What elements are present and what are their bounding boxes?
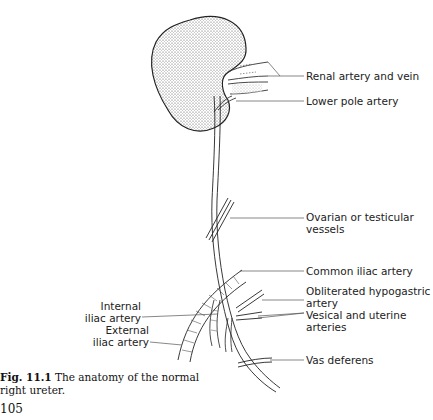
label-vesical-uterine-2: arteries bbox=[306, 321, 347, 333]
label-external-iliac-2: iliac artery bbox=[93, 336, 149, 348]
figure-caption: Fig. 11.1 The anatomy of the normal righ… bbox=[0, 371, 210, 397]
label-ovarian-testicular-1: Ovarian or testicular bbox=[306, 211, 414, 223]
label-obliterated-hypogastric-2: artery bbox=[306, 297, 338, 309]
label-external-iliac-1: External bbox=[105, 324, 149, 336]
label-ovarian-testicular-2: vessels bbox=[306, 223, 344, 235]
label-vas-deferens: Vas deferens bbox=[306, 354, 374, 366]
label-lower-pole-artery: Lower pole artery bbox=[306, 95, 398, 107]
label-obliterated-hypogastric-1: Obliterated hypogastric bbox=[306, 285, 430, 297]
label-internal-iliac-2: iliac artery bbox=[85, 312, 141, 324]
label-vesical-uterine-1: Vesical and uterine bbox=[306, 309, 406, 321]
figure-number: Fig. 11.1 bbox=[0, 371, 52, 383]
label-common-iliac-artery: Common iliac artery bbox=[306, 265, 413, 277]
label-internal-iliac-1: Internal bbox=[101, 300, 141, 312]
kidney bbox=[152, 16, 247, 131]
page-number: 105 bbox=[0, 402, 23, 416]
label-renal-artery-vein: Renal artery and vein bbox=[306, 70, 419, 82]
